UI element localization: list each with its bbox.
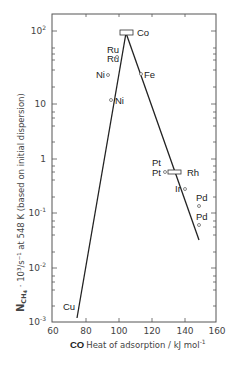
y-tick-10: 10 [35,99,47,109]
pd-marker-1 [198,205,201,208]
rh-marker [168,170,181,174]
label-pd-2: Pd [196,211,208,222]
label-rh: Rh [187,167,199,178]
y-tick-100: 102 [31,24,46,36]
label-ir: Ir [175,183,181,194]
label-ni-1: Ni [96,69,105,80]
y-axis-title: NCH4 · 10³/s⁻¹ at 548 K (based on initia… [15,93,28,312]
pd-marker-2 [198,224,201,227]
x-tick-120: 120 [143,326,160,336]
x-tick-labels: 60 80 100 120 140 160 [47,326,226,336]
x-tick-60: 60 [47,326,59,336]
label-pd-1: Pd [196,192,208,203]
label-fe: Fe [144,69,155,80]
bottom-x-ticks [86,318,185,322]
x-tick-160: 160 [208,326,225,336]
volcano-chart: 102 10 1 10-1 10-2 10-3 60 80 100 120 14… [0,0,234,365]
co-marker [120,30,133,35]
ni-marker-1 [107,74,110,77]
volcano-right-line [126,33,199,240]
label-pt-2: Pt [152,167,161,178]
y-tick-labels: 102 10 1 10-1 10-2 10-3 [29,24,47,327]
x-tick-140: 140 [176,326,193,336]
label-ni-2: Ni [115,95,124,106]
pt-marker [164,171,167,174]
y-tick-0.01: 10-2 [29,261,47,273]
y-tick-0.001: 10-3 [29,315,47,327]
ir-marker [184,188,187,191]
label-cu: Cu [63,301,75,312]
y-tick-1: 1 [40,154,46,164]
x-tick-100: 100 [110,326,127,336]
label-co: Co [137,27,149,38]
x-axis-title: COHeat of adsorption / kJ mol-1 [70,338,206,350]
x-tick-80: 80 [80,326,92,336]
left-y-ticks [52,31,57,306]
right-y-ticks [211,31,216,306]
y-tick-0.1: 10-1 [29,206,47,218]
fe-marker [140,73,143,76]
ni-marker-2 [110,99,113,102]
ru-marker [116,56,119,59]
